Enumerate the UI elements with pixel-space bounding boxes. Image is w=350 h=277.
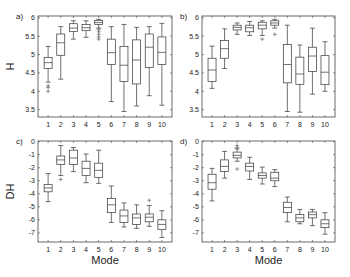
box-10 (321, 42, 329, 92)
x-tick-label: 8 (298, 246, 302, 253)
x-tick-label: 2 (59, 121, 63, 128)
y-tick-label: 5 (195, 51, 199, 58)
y-tick-label: -6 (193, 216, 199, 223)
box-3 (233, 144, 241, 171)
box-2 (221, 29, 229, 69)
iqr-box (271, 172, 279, 180)
y-tick-label: 4 (31, 88, 35, 95)
x-tick-label: 6 (273, 121, 277, 128)
boxplot-panel-d: -7-6-5-4-3-2-1012345678910d)Mode (180, 137, 335, 266)
y-tick-label: 0 (31, 138, 35, 145)
y-tick-label: -1 (29, 151, 35, 158)
box-7 (120, 24, 128, 111)
box-4 (82, 154, 90, 183)
x-tick-label: 6 (109, 121, 113, 128)
x-tick-label: 6 (109, 246, 113, 253)
y-tick-label: -7 (193, 229, 199, 236)
box-5 (258, 167, 266, 184)
box-8 (133, 27, 141, 106)
iqr-box (208, 174, 216, 189)
panel-label: c) (16, 137, 23, 146)
box-8 (133, 205, 141, 228)
y-tick-label: -7 (29, 229, 35, 236)
y-tick-label: -4 (193, 190, 199, 197)
x-tick-label: 3 (235, 121, 239, 128)
panel-label: b) (180, 12, 187, 21)
box-6 (271, 19, 279, 36)
x-tick-label: 8 (298, 121, 302, 128)
x-tick-label: 8 (135, 121, 139, 128)
x-tick-label: 2 (223, 121, 227, 128)
box-10 (158, 23, 166, 105)
iqr-box (221, 41, 229, 59)
x-tick-label: 10 (321, 121, 329, 128)
panel-label: a) (16, 12, 23, 21)
x-axis-label: Mode (91, 254, 119, 266)
iqr-box (107, 198, 115, 212)
iqr-box (120, 46, 128, 81)
x-tick-label: 7 (285, 246, 289, 253)
iqr-box (321, 56, 329, 85)
axes-frame (202, 141, 335, 242)
x-tick-label: 9 (147, 121, 151, 128)
x-tick-label: 9 (310, 246, 314, 253)
y-tick-label: 0 (195, 138, 199, 145)
y-axis-label: DH (4, 184, 16, 200)
x-tick-label: 3 (235, 246, 239, 253)
x-tick-label: 4 (84, 246, 88, 253)
x-tick-label: 4 (84, 121, 88, 128)
box-6 (107, 27, 115, 102)
panel-label: d) (180, 137, 187, 146)
y-tick-label: -4 (29, 190, 35, 197)
y-tick-label: 5 (31, 51, 35, 58)
boxplot-panel-c: -7-6-5-4-3-2-1012345678910c)DHMode (4, 137, 172, 266)
box-5 (95, 150, 103, 183)
x-tick-label: 5 (260, 121, 264, 128)
y-tick-label: -3 (193, 177, 199, 184)
box-7 (283, 25, 291, 111)
x-axis-label: Mode (255, 254, 283, 266)
y-tick-label: 4.5 (25, 69, 35, 76)
x-tick-label: 4 (248, 246, 252, 253)
box-2 (57, 27, 65, 80)
x-tick-label: 7 (122, 246, 126, 253)
box-3 (69, 148, 77, 172)
box-8 (296, 45, 304, 112)
x-tick-label: 5 (97, 246, 101, 253)
y-tick-label: 4.5 (189, 69, 199, 76)
x-tick-label: 4 (248, 121, 252, 128)
iqr-box (158, 37, 166, 65)
y-tick-label: 3.5 (25, 106, 35, 113)
y-tick-label: -5 (193, 203, 199, 210)
box-6 (271, 170, 279, 187)
iqr-box (133, 40, 141, 84)
box-5 (258, 21, 266, 41)
y-tick-label: 4 (195, 88, 199, 95)
x-tick-label: 1 (210, 121, 214, 128)
iqr-box (246, 25, 254, 32)
box-9 (145, 198, 153, 226)
x-tick-label: 3 (71, 121, 75, 128)
box-9 (308, 209, 316, 225)
figure: 3.544.555.5612345678910a)H 3.544.555.561… (0, 0, 350, 277)
x-tick-label: 1 (46, 246, 50, 253)
x-tick-label: 5 (97, 121, 101, 128)
iqr-box (145, 34, 153, 67)
iqr-box (133, 214, 141, 224)
boxplot-panel-b: 3.544.555.5612345678910b) (180, 12, 335, 128)
y-tick-label: 6 (31, 14, 35, 21)
box-4 (246, 22, 254, 36)
iqr-box (308, 47, 316, 71)
box-4 (246, 157, 254, 179)
x-tick-label: 1 (46, 121, 50, 128)
y-tick-label: -2 (29, 164, 35, 171)
x-tick-label: 10 (158, 121, 166, 128)
y-tick-label: -6 (29, 216, 35, 223)
x-tick-label: 6 (273, 246, 277, 253)
box-6 (107, 186, 115, 222)
y-tick-label: -1 (193, 151, 199, 158)
box-1 (208, 168, 216, 201)
x-tick-label: 1 (210, 246, 214, 253)
box-10 (321, 213, 329, 235)
x-tick-label: 10 (158, 246, 166, 253)
